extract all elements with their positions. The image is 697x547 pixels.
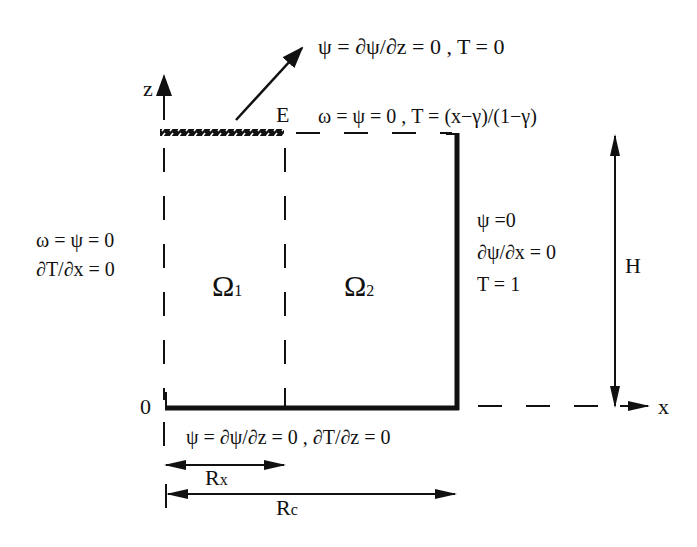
outlet-hatched-boundary — [160, 129, 284, 136]
right-boundary-condition-1: ψ =0 — [477, 210, 516, 230]
exit-boundary-condition: ψ = ∂ψ/∂z = 0 , T = 0 — [318, 36, 505, 58]
flow-domain-diagram: z ψ = ∂ψ/∂z = 0 , T = 0 E ω = ψ = 0 , T … — [0, 0, 697, 547]
rc-label: Rc — [276, 497, 298, 519]
origin-label: 0 — [140, 396, 151, 418]
x-axis-label: x — [658, 396, 669, 418]
region-omega-2: Ω2 — [344, 271, 374, 301]
left-boundary-condition-2: ∂T/∂x = 0 — [36, 259, 115, 279]
region-omega-1: Ω1 — [212, 271, 242, 301]
rx-label: Rx — [205, 467, 228, 489]
z-axis-label: z — [143, 78, 153, 100]
height-label: H — [625, 255, 641, 277]
right-boundary-condition-2: ∂ψ/∂x = 0 — [477, 242, 556, 262]
top-boundary-condition: ω = ψ = 0 , T = (x−γ)/(1−γ) — [318, 106, 537, 126]
bottom-boundary-condition: ψ = ∂ψ/∂z = 0 , ∂T/∂z = 0 — [186, 427, 391, 447]
point-e-label: E — [276, 104, 289, 126]
left-boundary-condition-1: ω = ψ = 0 — [36, 230, 114, 250]
exit-arrow — [236, 48, 302, 120]
right-boundary-condition-3: T = 1 — [477, 274, 520, 294]
